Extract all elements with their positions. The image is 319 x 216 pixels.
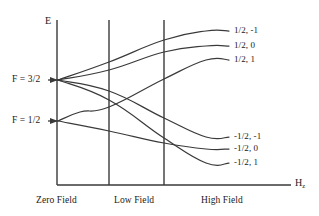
region-label-zero-field: Zero Field — [36, 196, 77, 206]
level-label-f-1-2: F = 1/2 — [12, 116, 40, 126]
energy-axis-label: E — [45, 16, 51, 26]
region-label-low-field: Low Field — [114, 196, 154, 206]
magnetic-field-axis-label-sub: z — [302, 182, 305, 189]
state-label-half-plus-1: 1/2, 1 — [234, 55, 255, 64]
state-label-minus-half-minus-1: -1/2, -1 — [234, 132, 261, 141]
energy-level-diagram-canvas — [0, 0, 319, 216]
state-curve — [58, 58, 229, 121]
magnetic-field-axis-label: Hz — [295, 178, 305, 188]
state-curve — [58, 80, 229, 165]
state-curve — [58, 30, 229, 80]
state-label-minus-half-plus-1: -1/2, 1 — [234, 158, 258, 167]
state-label-half-0: 1/2, 0 — [234, 41, 255, 50]
state-curve — [58, 45, 229, 80]
state-label-minus-half-0: -1/2, 0 — [234, 144, 258, 153]
zeeman-splitting-figure: E Hz F = 3/2 F = 1/2 1/2, -1 1/2, 0 1/2,… — [0, 0, 319, 216]
state-curve — [58, 121, 229, 150]
state-curve-group — [58, 30, 229, 165]
state-label-half-minus-1: 1/2, -1 — [234, 26, 258, 35]
region-label-high-field: High Field — [201, 196, 243, 206]
level-label-f-3-2: F = 3/2 — [12, 75, 40, 85]
